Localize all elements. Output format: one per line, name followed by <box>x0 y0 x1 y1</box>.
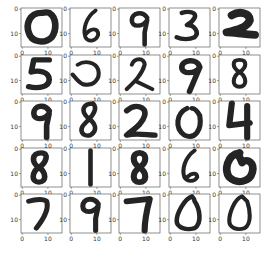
y-tick-label: 10 <box>59 216 67 223</box>
y-tick-label: 0 <box>162 52 166 59</box>
y-tick-label: 10 <box>208 77 216 84</box>
y-tick-label: 10 <box>208 216 216 223</box>
y-tick-label: 0 <box>112 145 116 152</box>
subplot-r2-c0: 010010 <box>10 98 62 149</box>
y-tick-label: 10 <box>208 123 216 130</box>
y-tick-label: 0 <box>14 5 18 12</box>
y-tick-label: 0 <box>14 145 18 152</box>
y-tick-label: 10 <box>10 123 18 130</box>
y-tick-label: 10 <box>158 170 166 177</box>
y-tick-label: 10 <box>108 170 116 177</box>
y-tick-label: 10 <box>59 170 67 177</box>
y-tick-label: 10 <box>10 170 18 177</box>
y-tick-label: 10 <box>108 30 116 37</box>
y-tick-label: 10 <box>10 77 18 84</box>
y-tick-label: 10 <box>158 216 166 223</box>
subplot-r3-c4: 010010 <box>208 145 260 196</box>
subplot-r2-c1: 010010 <box>59 98 111 149</box>
x-tick-label: 10 <box>192 235 200 242</box>
subplot-r3-c0: 010010 <box>10 145 62 196</box>
y-tick-label: 10 <box>158 30 166 37</box>
y-tick-label: 10 <box>59 30 67 37</box>
x-tick-label: 0 <box>168 235 172 242</box>
subplot-r0-c4: 010010 <box>208 5 260 56</box>
y-tick-label: 10 <box>59 77 67 84</box>
y-tick-label: 0 <box>212 5 216 12</box>
y-tick-label: 10 <box>208 170 216 177</box>
y-tick-label: 10 <box>108 216 116 223</box>
y-tick-label: 10 <box>208 30 216 37</box>
subplot-r2-c3: 010010 <box>158 98 210 149</box>
subplot-r3-c2: 010010 <box>108 145 160 196</box>
subplot-r0-c1: 010010 <box>59 5 111 56</box>
x-tick-label: 0 <box>218 235 222 242</box>
x-tick-label: 10 <box>44 235 52 242</box>
subplot-r4-c1: 010010 <box>59 191 111 242</box>
y-tick-label: 0 <box>14 98 18 105</box>
subplot-r1-c3: 010010 <box>158 52 210 103</box>
subplot-r1-c1: 010010 <box>59 52 111 103</box>
y-tick-label: 0 <box>212 98 216 105</box>
y-tick-label: 10 <box>59 123 67 130</box>
subplot-r4-c2: 010010 <box>108 191 160 242</box>
y-tick-label: 0 <box>112 191 116 198</box>
y-tick-label: 0 <box>162 191 166 198</box>
subplot-r0-c0: 010010 <box>10 5 62 56</box>
x-tick-label: 10 <box>142 235 150 242</box>
x-tick-label: 0 <box>118 235 122 242</box>
y-tick-label: 10 <box>10 30 18 37</box>
digit-grid-figure: 0100100100100100100100100100100100100100… <box>0 0 267 255</box>
subplot-r1-c0: 010010 <box>10 52 62 103</box>
y-tick-label: 0 <box>112 5 116 12</box>
y-tick-label: 0 <box>212 52 216 59</box>
y-tick-label: 10 <box>158 77 166 84</box>
y-tick-label: 0 <box>162 98 166 105</box>
y-tick-label: 10 <box>10 216 18 223</box>
subplot-r1-c2: 010010 <box>108 52 160 103</box>
y-tick-label: 0 <box>63 191 67 198</box>
y-tick-label: 10 <box>158 123 166 130</box>
y-tick-label: 0 <box>112 52 116 59</box>
subplot-r3-c1: 010010 <box>59 145 111 196</box>
y-tick-label: 0 <box>63 52 67 59</box>
y-tick-label: 0 <box>112 98 116 105</box>
y-tick-label: 0 <box>14 191 18 198</box>
subplot-r2-c4: 010010 <box>208 98 260 149</box>
x-tick-label: 0 <box>69 235 73 242</box>
y-tick-label: 0 <box>63 145 67 152</box>
subplot-r2-c2: 010010 <box>108 98 160 149</box>
y-tick-label: 0 <box>212 191 216 198</box>
x-tick-label: 0 <box>20 235 24 242</box>
y-tick-label: 10 <box>108 77 116 84</box>
y-tick-label: 0 <box>162 145 166 152</box>
subplot-r4-c4: 010010 <box>208 191 260 242</box>
y-tick-label: 0 <box>63 98 67 105</box>
y-tick-label: 0 <box>14 52 18 59</box>
x-tick-label: 10 <box>242 235 250 242</box>
x-tick-label: 10 <box>93 235 101 242</box>
subplot-r4-c0: 010010 <box>10 191 62 242</box>
y-tick-label: 0 <box>162 5 166 12</box>
y-tick-label: 0 <box>63 5 67 12</box>
y-tick-label: 10 <box>108 123 116 130</box>
subplot-r3-c3: 010010 <box>158 145 210 196</box>
subplot-r1-c4: 010010 <box>208 52 260 103</box>
subplot-r0-c2: 010010 <box>108 5 160 56</box>
subplot-r0-c3: 010010 <box>158 5 210 56</box>
subplot-r4-c3: 010010 <box>158 191 210 242</box>
y-tick-label: 0 <box>212 145 216 152</box>
